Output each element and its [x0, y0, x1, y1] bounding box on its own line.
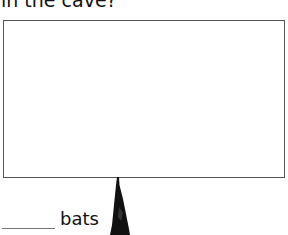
drawing-box[interactable] — [3, 20, 285, 178]
question-text: in the cave? — [1, 0, 117, 10]
answer-blank[interactable] — [2, 228, 55, 229]
answer-unit: bats — [60, 210, 99, 228]
hanging-bat-icon — [104, 177, 134, 235]
